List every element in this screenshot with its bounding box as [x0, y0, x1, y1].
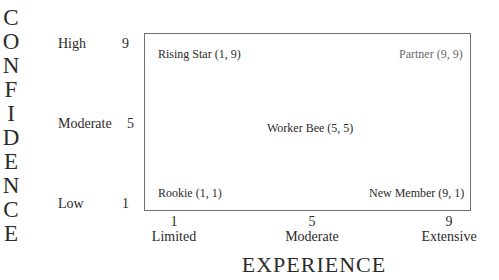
point-label-partner: Partner (9, 9) — [399, 47, 463, 62]
x-tick-limited: 1 Limited — [144, 214, 204, 244]
x-tick-label-moderate: Moderate — [272, 229, 352, 244]
y-axis-title-letter: E — [4, 150, 18, 174]
y-axis-title-letter: O — [3, 30, 20, 54]
y-tick-label-high: High — [58, 36, 86, 52]
y-axis-title: C O N F I D E N C E — [0, 6, 22, 246]
x-tick-moderate: 5 Moderate — [272, 214, 352, 244]
y-axis-title-letter: N — [3, 174, 20, 198]
point-label-worker-bee: Worker Bee (5, 5) — [267, 121, 353, 136]
y-axis-title-letter: C — [3, 6, 18, 30]
y-tick-value-1: 1 — [117, 196, 129, 212]
y-tick-value-5: 5 — [122, 116, 134, 132]
x-tick-value-9: 9 — [409, 214, 489, 229]
x-tick-label-extensive: Extensive — [409, 229, 489, 244]
y-axis-title-letter: N — [3, 54, 20, 78]
x-tick-value-1: 1 — [144, 214, 204, 229]
y-tick-label-low: Low — [58, 196, 84, 212]
point-label-rookie: Rookie (1, 1) — [158, 186, 222, 201]
x-tick-extensive: 9 Extensive — [409, 214, 489, 244]
x-axis-title: EXPERIENCE — [224, 252, 404, 278]
y-tick-value-9: 9 — [117, 36, 129, 52]
y-axis-title-letter: D — [3, 126, 20, 150]
point-label-new-member: New Member (9, 1) — [369, 186, 464, 201]
x-tick-label-limited: Limited — [144, 229, 204, 244]
y-axis-title-letter: C — [3, 198, 18, 222]
y-axis-title-letter: E — [4, 222, 18, 246]
y-axis-title-letter: F — [5, 78, 18, 102]
x-tick-value-5: 5 — [272, 214, 352, 229]
y-tick-label-moderate: Moderate — [58, 116, 112, 132]
point-label-rising-star: Rising Star (1, 9) — [158, 47, 241, 62]
y-axis-title-letter: I — [7, 102, 15, 126]
